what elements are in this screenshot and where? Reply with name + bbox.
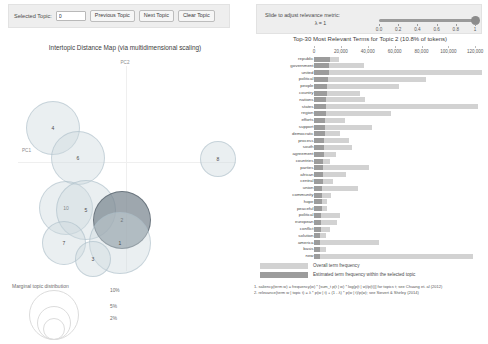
term-row[interactable]: union — [252, 185, 488, 191]
term-row[interactable]: south — [252, 144, 488, 150]
bar-topic-frequency — [314, 131, 325, 136]
top-terms-panel: Top-30 Most Relevant Terms for Topic 2 (… — [252, 34, 488, 322]
bar-topic-frequency — [314, 213, 321, 218]
bar-overall-frequency — [314, 77, 426, 82]
term-row[interactable]: countries — [252, 158, 488, 164]
term-row[interactable]: african — [252, 172, 488, 178]
bar-topic-frequency — [314, 70, 329, 75]
term-row[interactable]: political — [252, 212, 488, 218]
term-row[interactable]: agreement — [252, 151, 488, 157]
slider-tick-label: 1 — [474, 27, 477, 32]
relevance-slider-ticks: 0.00.20.40.60.81 — [375, 24, 481, 34]
bar-topic-frequency — [314, 91, 327, 96]
bar-topic-frequency — [314, 57, 330, 62]
selected-topic-label: Selected Topic: — [14, 13, 52, 19]
term-label: south — [303, 144, 314, 150]
bar-topic-frequency — [314, 77, 328, 82]
term-row[interactable]: united — [252, 70, 488, 76]
selected-topic-input[interactable] — [56, 11, 86, 21]
slider-tick-label: 0.0 — [376, 27, 382, 32]
x-axis-tick-label: 80,000 — [415, 49, 429, 54]
bar-overall-frequency — [314, 240, 379, 245]
bar-topic-frequency — [314, 199, 322, 204]
bar-topic-frequency — [314, 247, 320, 252]
previous-topic-button[interactable]: Previous Topic — [90, 10, 135, 21]
term-row[interactable]: america — [252, 240, 488, 246]
legend-swatch-topic — [260, 272, 308, 278]
topic-bubble-number: 8 — [217, 156, 220, 162]
term-label: conflict — [300, 226, 314, 232]
slider-tick-label: 0.2 — [395, 27, 401, 32]
term-row[interactable]: country — [252, 90, 488, 96]
topic-bubble-3[interactable]: 3 — [75, 241, 111, 277]
slider-tick-mark — [398, 24, 399, 26]
topic-controls-bar: Selected Topic: Previous Topic Next Topi… — [8, 4, 230, 28]
bar-chart-x-axis: 020,00040,00060,00080,000100,000120,000 — [252, 46, 488, 56]
term-row[interactable]: hope — [252, 199, 488, 205]
x-axis-tick-mark — [341, 46, 342, 48]
bar-topic-frequency — [314, 206, 322, 211]
legend-label-topic: Estimated term frequency within the sele… — [313, 271, 415, 279]
bar-topic-frequency — [314, 145, 324, 150]
relevance-instruction: Slide to adjust relevance metric: λ = 1 — [265, 12, 370, 28]
lambda-value-label: λ = 1 — [265, 20, 370, 28]
term-label: basis — [303, 246, 313, 252]
bar-topic-frequency — [314, 118, 325, 123]
topic-bubble-number: 6 — [77, 155, 80, 161]
term-row[interactable]: conflict — [252, 226, 488, 232]
marginal-legend-label: 5% — [110, 304, 117, 309]
bar-topic-frequency — [314, 179, 323, 184]
term-row[interactable]: basis — [252, 246, 488, 252]
marginal-distribution-title: Marginal topic distribution — [12, 283, 69, 289]
relevance-slider-track[interactable] — [379, 19, 475, 22]
clear-topic-button[interactable]: Clear Topic — [178, 10, 215, 21]
x-axis-tick-mark — [422, 46, 423, 48]
term-row[interactable]: democratic — [252, 131, 488, 137]
topic-bubble-6[interactable]: 6 — [51, 131, 105, 185]
topic-bubble-number: 5 — [85, 207, 88, 213]
term-row[interactable]: government — [252, 63, 488, 69]
term-row[interactable]: parties — [252, 165, 488, 171]
term-row[interactable]: republic — [252, 56, 488, 62]
term-row[interactable]: political — [252, 76, 488, 82]
term-row[interactable]: community — [252, 192, 488, 198]
term-row[interactable]: european — [252, 219, 488, 225]
bar-topic-frequency — [314, 138, 324, 143]
term-row[interactable]: central — [252, 178, 488, 184]
term-row[interactable]: efforts — [252, 117, 488, 123]
term-row[interactable]: region — [252, 110, 488, 116]
topic-bubble-8[interactable]: 8 — [200, 141, 236, 177]
term-label: hope — [304, 199, 314, 205]
term-label: community — [292, 192, 313, 198]
term-row[interactable]: people — [252, 83, 488, 89]
footnotes: 1. saliency(term w) = frequency(w) * [su… — [254, 284, 488, 296]
relevance-slider-bar: Slide to adjust relevance metric: λ = 1 … — [256, 4, 482, 34]
bar-topic-frequency — [314, 84, 327, 89]
term-label: democratic — [292, 131, 313, 137]
footnote-relevance: 2. relevance(term w | topic t) = λ * p(w… — [254, 290, 488, 296]
bar-topic-frequency — [314, 186, 322, 191]
term-label: european — [295, 219, 314, 225]
term-row[interactable]: process — [252, 138, 488, 144]
term-row[interactable]: new — [252, 253, 488, 259]
legend-label-overall: Overall term frequency — [313, 262, 359, 270]
bar-overall-frequency — [314, 104, 478, 109]
topic-bubbles-container: 4681052173 — [0, 30, 250, 280]
term-row[interactable]: support — [252, 124, 488, 130]
slider-tick-mark — [417, 24, 418, 26]
next-topic-button[interactable]: Next Topic — [139, 10, 174, 21]
term-row[interactable]: states — [252, 104, 488, 110]
bar-chart-title: Top-30 Most Relevant Terms for Topic 2 (… — [252, 36, 488, 42]
term-row[interactable]: nations — [252, 97, 488, 103]
bar-overall-frequency — [314, 70, 482, 75]
bar-topic-frequency — [314, 193, 322, 198]
term-row[interactable]: solution — [252, 233, 488, 239]
bar-topic-frequency — [314, 233, 320, 238]
term-row[interactable]: peaceful — [252, 206, 488, 212]
term-label: process — [298, 138, 313, 144]
x-axis-tick-label: 100,000 — [440, 49, 456, 54]
term-label: republic — [298, 56, 313, 62]
bar-topic-frequency — [314, 152, 324, 157]
term-label: agreement — [293, 151, 314, 157]
bar-topic-frequency — [314, 111, 326, 116]
